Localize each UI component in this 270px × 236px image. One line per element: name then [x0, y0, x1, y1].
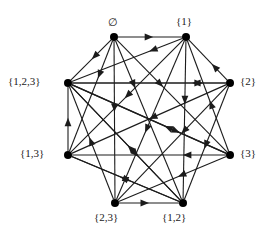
node-label-s3: {3}: [240, 147, 256, 159]
node-label-s23: {2,3}: [94, 211, 118, 223]
edge-arrowhead-icon: [89, 137, 95, 146]
graph-node-s2: [226, 79, 234, 87]
graph-edge: [72, 38, 183, 81]
edge-arrowhead-icon: [141, 200, 150, 207]
node-label-empty: ∅: [108, 16, 118, 29]
graph-edge: [69, 41, 112, 152]
edge-arrowhead-icon: [145, 34, 154, 41]
directed-graph-svg: [0, 0, 270, 236]
node-label-s2: {2}: [240, 75, 256, 87]
graph-node-s123: [64, 79, 72, 87]
node-label-s1: {1}: [176, 15, 192, 27]
edge-arrowhead-icon: [129, 79, 135, 88]
edge-arrowhead-icon: [149, 45, 158, 51]
graph-node-s12: [179, 199, 187, 207]
graph-node-s23: [111, 199, 119, 207]
graph-edge: [119, 157, 227, 202]
graph-node-s3: [226, 151, 234, 159]
graph-edge: [71, 86, 180, 200]
edge-arrowhead-icon: [65, 118, 72, 127]
node-label-s123: {1,2,3}: [8, 75, 41, 87]
node-label-s13: {1,3}: [20, 147, 44, 159]
graph-node-s1: [182, 33, 190, 41]
edge-arrowhead-icon: [120, 177, 129, 183]
graph-edge: [116, 41, 182, 200]
graph-node-empty: [110, 33, 118, 41]
graph-node-s13: [64, 151, 72, 159]
graph-edge: [187, 41, 228, 152]
edge-layer: [65, 34, 229, 207]
graph-edge: [117, 40, 227, 152]
edge-arrowhead-icon: [178, 170, 187, 176]
figure-canvas: ∅{1}{1,2,3}{2}{1,3}{3}{2,3}{1,2}: [0, 0, 270, 236]
node-label-s12: {1,2}: [162, 211, 186, 223]
